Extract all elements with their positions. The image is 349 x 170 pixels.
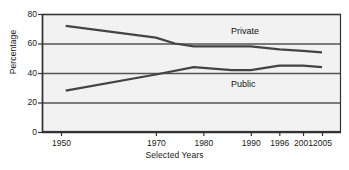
x-tick-label: 1996 bbox=[270, 138, 289, 148]
series-annotation-public: Public bbox=[231, 79, 256, 89]
x-axis-tick-labels: 1950197019801990199620012005 bbox=[0, 0, 349, 170]
series-annotation-private: Private bbox=[231, 26, 259, 36]
x-tick-label: 1970 bbox=[147, 138, 166, 148]
x-axis-title: Selected Years bbox=[0, 150, 349, 160]
x-tick-label: 1980 bbox=[194, 138, 213, 148]
chart-container: Percentage 020406080 1950197019801990199… bbox=[0, 0, 349, 170]
x-tick-label: 1990 bbox=[242, 138, 261, 148]
x-tick-label: 2001 bbox=[294, 138, 313, 148]
x-tick-label: 1950 bbox=[52, 138, 71, 148]
x-tick-label: 2005 bbox=[313, 138, 332, 148]
